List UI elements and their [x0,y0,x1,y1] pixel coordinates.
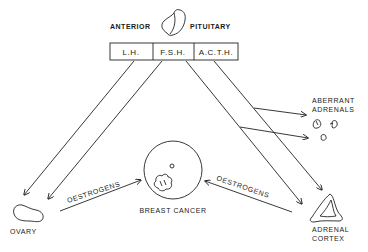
adrenal-cortex-label-line1: ADRENAL [312,226,349,233]
anterior-label: ANTERIOR [110,23,151,30]
nipple-icon [170,164,174,168]
arrow-lh-to-ovary [24,61,134,195]
oestrogens-right-label: OESTROGENS [216,174,271,199]
aberrant-label-line2: ADRENALS [312,106,355,113]
arrow-acth-to-adrenal [214,61,322,190]
tumour-icon [154,174,172,191]
breast-cancer-label: BREAST CANCER [139,207,206,214]
hormone-acth: A.C.T.H. [199,48,234,57]
endocrine-diagram: ANTERIOR PITUITARY L.H. F.S.H. A.C.T.H. … [0,0,368,252]
aberrant-label-line1: ABERRANT [312,97,355,104]
hormone-lh: L.H. [122,48,139,57]
oestrogens-left-label: OESTROGENS [66,180,121,204]
pituitary-gland-icon [162,10,185,36]
hormone-box: L.H. F.S.H. A.C.T.H. [110,43,238,60]
hormone-fsh: F.S.H. [160,48,185,57]
aberrant-adrenal-icon [321,135,326,141]
breast-circle [144,141,202,199]
pituitary-label: PITUITARY [190,23,231,30]
ovary-label: OVARY [10,228,37,235]
aberrant-adrenal-icon [313,120,321,128]
adrenal-cortex-label-line2: CORTEX [312,235,345,242]
arrow-to-aberrant-2 [240,127,308,138]
adrenal-cortex-icon [310,194,342,222]
aberrant-adrenal-icon [330,121,337,128]
ovary-icon [14,205,44,222]
arrow-to-aberrant-1 [254,108,306,115]
